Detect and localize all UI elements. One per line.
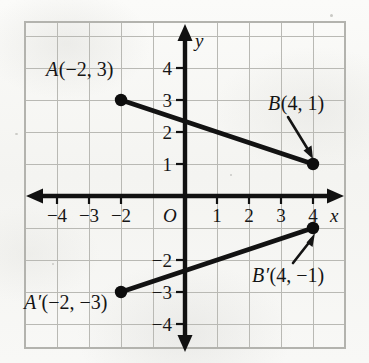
y-axis-down-arrow (178, 335, 193, 352)
leader-arrow-b (288, 117, 313, 159)
y-tick-label-neg3: −3 (144, 283, 172, 302)
point-label-b-prime-letter: B′ (252, 264, 270, 286)
point-b (307, 158, 319, 170)
y-tick-label-4: 4 (152, 59, 172, 78)
x-axis-label: x (330, 206, 338, 225)
x-axis-left-arrow (26, 189, 43, 204)
point-label-b-letter: B (268, 92, 281, 114)
point-label-b-prime-coords: (4, −1) (270, 264, 325, 286)
y-tick-label-2: 2 (152, 123, 172, 142)
point-a (115, 94, 127, 106)
x-axis-right-arrow (327, 189, 344, 204)
point-label-b-coords: (4, 1) (281, 92, 324, 114)
point-label-a-prime-letter: A′ (24, 291, 42, 313)
x-tick-label-1: 1 (206, 206, 228, 225)
point-label-a-letter: A (46, 58, 59, 80)
point-label-a: A(−2, 3) (46, 59, 113, 79)
origin-label: O (163, 206, 177, 225)
x-tick-label-4: 4 (302, 206, 324, 225)
point-label-a-coords: (−2, 3) (59, 58, 114, 80)
point-label-a-prime-coords: (−2, −3) (42, 291, 108, 313)
x-tick-label-neg2: −2 (108, 206, 134, 225)
point-label-a-prime: A′(−2, −3) (24, 292, 107, 312)
x-tick-label-3: 3 (270, 206, 292, 225)
y-axis-label: y (195, 31, 203, 50)
coordinate-plane-figure: −4 −3 −2 1 2 3 4 O 4 3 2 1 −2 −3 −4 y x … (0, 0, 369, 363)
leader-arrow-b-prime (293, 233, 315, 263)
x-tick-label-neg4: −4 (44, 206, 70, 225)
x-tick-label-neg3: −3 (76, 206, 102, 225)
y-tick-label-3: 3 (152, 91, 172, 110)
y-tick-label-1: 1 (152, 155, 172, 174)
y-tick-label-neg2: −2 (144, 251, 172, 270)
y-tick-label-neg4: −4 (144, 315, 172, 334)
y-axis-up-arrow (178, 24, 193, 41)
x-tick-label-2: 2 (238, 206, 260, 225)
point-a-prime (115, 286, 127, 298)
point-label-b: B(4, 1) (268, 93, 324, 113)
point-label-b-prime: B′(4, −1) (252, 265, 324, 285)
